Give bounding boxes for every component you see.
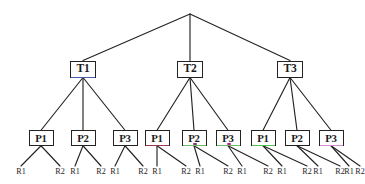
tier-node-t2[interactable]: T2 [177,61,203,78]
leaf-node-r1: R1 [16,167,25,176]
leaf-node-r2: R2 [263,167,272,176]
edge-process-to-leaf-17 [331,146,360,166]
process-node-t3-p1[interactable]: P1 [251,130,276,146]
leaf-node-r1: R1 [110,167,119,176]
process-node-accent-underline [146,145,169,146]
leaf-node-r1: R1 [152,167,161,176]
process-node-label: P1 [257,133,269,144]
tier-node-label: T1 [76,63,89,75]
edge-t2-to-process-4 [190,78,194,131]
edge-t1-to-process-2 [83,78,125,131]
leaf-node-r2: R2 [335,167,344,176]
process-node-t1-p1[interactable]: P1 [29,130,54,146]
process-node-t2-p3[interactable]: P3 [216,130,241,146]
edge-t2-to-process-3 [157,78,190,131]
edge-process-to-leaf-0 [21,146,41,166]
leaf-node-r2: R2 [96,167,105,176]
process-node-label: P2 [188,133,200,144]
leaf-node-r2: R2 [181,167,190,176]
edge-process-to-leaf-5 [125,146,143,166]
process-node-accent-underline [252,145,275,146]
edge-t3-to-process-6 [263,78,290,131]
leaf-node-r2: R2 [138,167,147,176]
leaf-node-r1: R1 [313,167,322,176]
process-node-accent-underline [320,145,343,146]
process-node-label: P3 [119,133,131,144]
edge-layer [0,0,365,184]
leaf-node-r2: R2 [355,167,364,176]
process-node-t1-p3[interactable]: P3 [113,130,138,146]
edge-root-to-t3-2 [190,14,290,61]
tier-node-t3[interactable]: T3 [277,61,303,78]
leaf-node-r1: R1 [195,167,204,176]
tier-node-t1[interactable]: T1 [70,61,96,78]
tier-node-label: T2 [183,63,196,75]
root-node [189,13,191,15]
tier-node-accent-underline [71,77,95,78]
edge-process-to-leaf-12 [263,146,282,166]
leaf-node-r1: R1 [237,167,246,176]
edge-process-to-leaf-7 [157,146,186,166]
process-node-label: P1 [151,133,163,144]
edge-t2-to-process-5 [190,78,228,131]
edge-process-to-leaf-4 [115,146,125,166]
leaf-node-r2: R2 [55,167,64,176]
process-node-label: P3 [222,133,234,144]
process-node-label: P3 [325,133,337,144]
leaf-node-r2: R2 [302,167,311,176]
process-node-label: P1 [35,133,47,144]
edge-t1-to-process-0 [41,78,83,131]
edge-process-to-leaf-3 [83,146,101,166]
tier-node-label: T3 [283,63,296,75]
leaf-node-r2: R2 [223,167,232,176]
process-node-label: P2 [291,133,303,144]
process-node-t2-p1[interactable]: P1 [145,130,170,146]
edge-process-to-leaf-2 [75,146,83,166]
process-node-label: P2 [77,133,89,144]
leaf-node-r1: R1 [70,167,79,176]
process-node-t2-p2[interactable]: P2 [182,130,207,146]
tree-diagram: T1T2T3P1P2P3P1P2P3P1P2P3R1R2R1R2R1R2R1R2… [0,0,365,184]
edge-process-to-leaf-11 [228,146,268,166]
process-node-t3-p2[interactable]: P2 [285,130,310,146]
edge-process-to-leaf-1 [41,146,60,166]
process-node-t3-p3[interactable]: P3 [319,130,344,146]
leaf-node-r1: R1 [277,167,286,176]
edge-root-to-t1-0 [83,14,190,61]
leaf-node-r1: R1 [344,167,353,176]
process-node-t1-p2[interactable]: P2 [71,130,96,146]
